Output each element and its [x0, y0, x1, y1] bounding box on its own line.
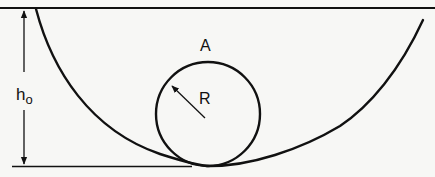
radius-label: R — [199, 91, 211, 107]
ball — [156, 62, 260, 166]
curved-track — [36, 9, 423, 166]
diagram-canvas: ho A R — [0, 0, 435, 177]
height-label: ho — [16, 86, 33, 106]
point-a-label: A — [200, 38, 211, 54]
diagram-svg — [0, 0, 435, 177]
height-label-subscript: o — [25, 92, 32, 107]
